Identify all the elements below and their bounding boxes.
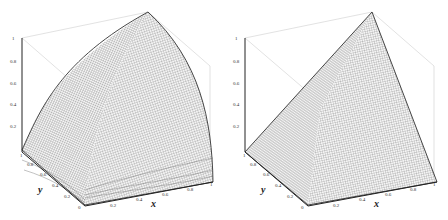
right-surface-plot: 1 0.8 0.6 0.4 0.2 1 0.8 0.6 0.4 0.2 0 y … xyxy=(224,0,448,220)
svg-text:0.8: 0.8 xyxy=(10,59,17,64)
svg-text:0.4: 0.4 xyxy=(275,183,282,188)
left-x-label: x xyxy=(150,198,156,209)
svg-text:0.8: 0.8 xyxy=(187,187,194,192)
svg-text:0.2: 0.2 xyxy=(333,203,340,208)
svg-text:0.8: 0.8 xyxy=(250,162,257,167)
svg-text:0: 0 xyxy=(301,205,304,210)
svg-text:0.2: 0.2 xyxy=(64,194,71,199)
svg-text:0.4: 0.4 xyxy=(136,197,143,202)
right-x-label: x xyxy=(373,198,379,209)
right-surface-face-x xyxy=(308,12,437,205)
svg-text:0.8: 0.8 xyxy=(27,162,34,167)
svg-text:1: 1 xyxy=(235,36,238,41)
svg-text:0.8: 0.8 xyxy=(233,59,240,64)
svg-text:1: 1 xyxy=(12,36,15,41)
svg-text:0.4: 0.4 xyxy=(10,102,17,107)
svg-text:0.6: 0.6 xyxy=(10,81,17,86)
left-y-label: y xyxy=(37,184,43,195)
svg-text:0.6: 0.6 xyxy=(385,192,392,197)
svg-text:1: 1 xyxy=(210,182,213,187)
svg-text:0.4: 0.4 xyxy=(233,102,240,107)
right-y-label: y xyxy=(260,184,266,195)
left-surface-plot: 1 0.8 0.6 0.4 0.2 1 0.8 0.6 0.4 0.2 0 y … xyxy=(0,0,224,220)
svg-text:0.8: 0.8 xyxy=(410,187,417,192)
svg-text:0.2: 0.2 xyxy=(10,124,17,129)
svg-text:1: 1 xyxy=(20,153,23,158)
svg-text:0: 0 xyxy=(78,205,81,210)
svg-text:0.6: 0.6 xyxy=(263,172,270,177)
svg-text:1: 1 xyxy=(243,153,246,158)
svg-text:0.4: 0.4 xyxy=(52,183,59,188)
figure: 1 0.8 0.6 0.4 0.2 1 0.8 0.6 0.4 0.2 0 y … xyxy=(0,0,448,220)
svg-text:0.2: 0.2 xyxy=(233,124,240,129)
svg-text:0.6: 0.6 xyxy=(162,192,169,197)
left-plot-canvas: 1 0.8 0.6 0.4 0.2 1 0.8 0.6 0.4 0.2 0 y … xyxy=(0,0,224,220)
svg-text:0.6: 0.6 xyxy=(233,81,240,86)
svg-text:0.6: 0.6 xyxy=(40,172,47,177)
left-z-ticks: 1 0.8 0.6 0.4 0.2 xyxy=(10,36,17,129)
svg-text:0.2: 0.2 xyxy=(110,203,117,208)
right-plot-canvas: 1 0.8 0.6 0.4 0.2 1 0.8 0.6 0.4 0.2 0 y … xyxy=(224,0,448,220)
svg-text:0.4: 0.4 xyxy=(359,197,366,202)
svg-text:0.2: 0.2 xyxy=(287,194,294,199)
right-z-ticks: 1 0.8 0.6 0.4 0.2 xyxy=(233,36,240,129)
left-surface-face-x xyxy=(85,12,213,205)
